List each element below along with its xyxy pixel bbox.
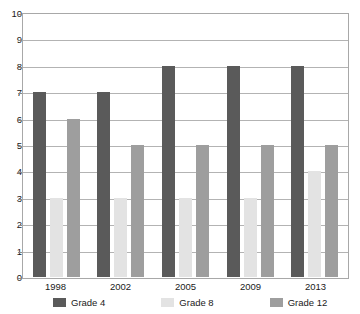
legend-label: Grade 12 <box>288 297 328 308</box>
bar <box>131 145 144 277</box>
plot-wrapper <box>22 13 349 279</box>
bar <box>97 92 110 277</box>
legend-label: Grade 8 <box>179 297 213 308</box>
bar <box>162 66 175 277</box>
x-axis-tick-label: 2009 <box>218 281 283 293</box>
legend-label: Grade 4 <box>71 297 105 308</box>
bar <box>308 171 321 277</box>
bar <box>114 198 127 277</box>
legend-swatch <box>161 298 174 307</box>
x-axis-tick-label: 1998 <box>23 281 88 293</box>
bar-group <box>218 15 283 277</box>
bar <box>67 119 80 277</box>
bar <box>33 92 46 277</box>
legend-swatch <box>53 298 66 307</box>
legend-item: Grade 12 <box>240 297 348 308</box>
bar-group <box>282 15 347 277</box>
bar-group <box>89 15 154 277</box>
bar <box>227 66 240 277</box>
bar <box>325 145 338 277</box>
bar-groups <box>24 15 347 277</box>
bar <box>291 66 304 277</box>
bar <box>179 198 192 277</box>
chart-legend: Grade 4Grade 8Grade 12 <box>23 297 348 308</box>
legend-item: Grade 8 <box>131 297 239 308</box>
bar <box>261 145 274 277</box>
legend-swatch <box>270 298 283 307</box>
x-axis-labels: 19982002200520092013 <box>23 281 348 293</box>
bar <box>196 145 209 277</box>
plot-area <box>22 13 349 279</box>
bar-group <box>153 15 218 277</box>
x-axis-tick-label: 2002 <box>88 281 153 293</box>
bar-group <box>24 15 89 277</box>
bar-chart: 012345678910 19982002200520092013 Grade … <box>0 0 360 314</box>
x-axis-tick-label: 2005 <box>153 281 218 293</box>
bar <box>50 198 63 277</box>
x-axis-tick-label: 2013 <box>283 281 348 293</box>
bar <box>244 198 257 277</box>
legend-item: Grade 4 <box>23 297 131 308</box>
